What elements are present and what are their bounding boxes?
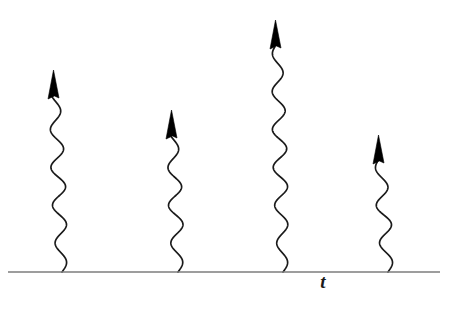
figure-canvas: t (0, 0, 460, 309)
time-axis-label: t (320, 271, 326, 292)
figure-background (0, 0, 460, 309)
figure-svg: t (0, 0, 460, 309)
